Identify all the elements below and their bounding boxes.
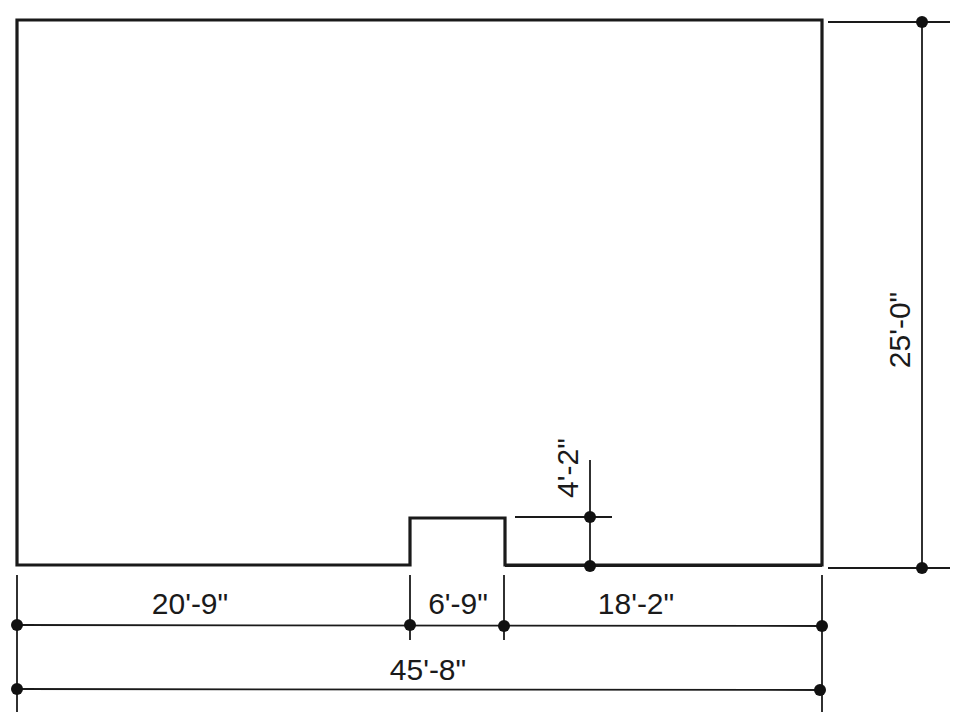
- dimension-dot: [816, 620, 828, 632]
- dimension-dot: [11, 683, 23, 695]
- dimension-dot: [11, 619, 23, 631]
- dimension-dot: [404, 619, 416, 631]
- building-outline: [17, 20, 822, 565]
- dimension-dot: [814, 684, 826, 696]
- dimension-line-segments: [17, 625, 822, 626]
- right-segment-label: 18'-2": [598, 587, 674, 620]
- bump-depth-dimension: 4'-2": [505, 438, 822, 572]
- depth-dimension: 25'-0": [828, 16, 950, 574]
- bump-depth-label: 4'-2": [551, 438, 584, 498]
- bump-segment-label: 6'-9": [428, 587, 488, 620]
- dimension-line-overall-width: [17, 689, 820, 690]
- left-segment-label: 20'-9": [152, 587, 228, 620]
- dimension-dot: [584, 560, 596, 572]
- floor-plan-drawing: 25'-0" 4'-2" 20'-9" 6'-9" 18'-2" 45'-8": [0, 0, 963, 720]
- segment-dimension-row: 20'-9" 6'-9" 18'-2": [11, 587, 828, 632]
- overall-width-label: 45'-8": [390, 653, 466, 686]
- dimension-dot: [584, 511, 596, 523]
- width-extension-lines: [17, 575, 822, 712]
- dimension-dot: [916, 16, 928, 28]
- dimension-dot: [498, 620, 510, 632]
- dimension-dot: [916, 562, 928, 574]
- depth-dimension-label: 25'-0": [883, 292, 916, 368]
- overall-width-dimension-row: 45'-8": [11, 653, 826, 696]
